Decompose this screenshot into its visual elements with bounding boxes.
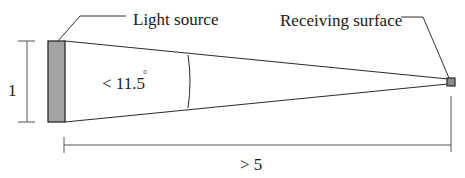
distance-label: > 5	[240, 155, 262, 174]
receiving-surface-label: Receiving surface	[280, 11, 402, 30]
light-source-panel	[48, 41, 65, 122]
light-geometry-diagram: 1 < 11.5 ° Light source Receiving surfac…	[0, 0, 465, 178]
light-source-label: Light source	[133, 10, 218, 29]
diagram-svg: 1 < 11.5 ° Light source Receiving surfac…	[0, 0, 465, 178]
receiving-surface-box	[447, 78, 455, 86]
height-dimension: 1	[8, 41, 35, 122]
distance-dimension: > 5	[64, 96, 451, 174]
angle-label: < 11.5	[102, 74, 145, 93]
height-label: 1	[8, 81, 17, 100]
degree-symbol: °	[143, 69, 147, 80]
angle-arc	[188, 55, 190, 108]
receiving-surface-leader	[401, 17, 449, 78]
light-source-leader	[58, 16, 126, 41]
